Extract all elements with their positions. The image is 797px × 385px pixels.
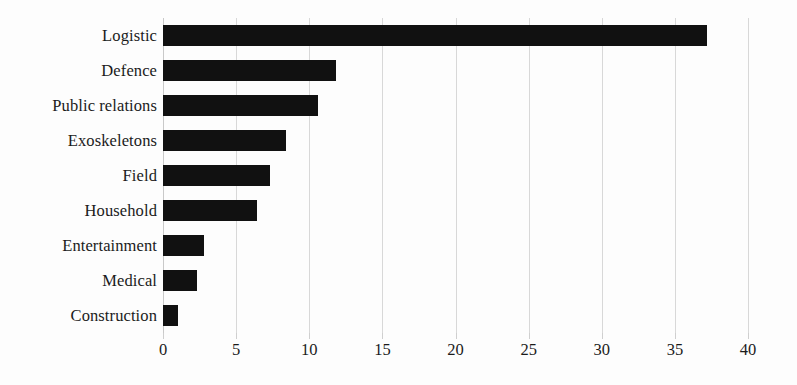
bar-row: [163, 18, 748, 53]
tick-mark-30: [602, 333, 603, 339]
category-label-logistic: Logistic: [0, 18, 157, 53]
tick-mark-0: [163, 333, 164, 339]
tick-label-35: 35: [667, 340, 684, 360]
bar-medical[interactable]: [163, 270, 197, 291]
category-axis-labels: LogisticDefencePublic relationsExoskelet…: [0, 18, 157, 333]
bar-row: [163, 123, 748, 158]
tick-label-10: 10: [301, 340, 318, 360]
tick-label-5: 5: [232, 340, 240, 360]
tick-label-40: 40: [740, 340, 757, 360]
tick-mark-35: [675, 333, 676, 339]
gridline-40: [748, 18, 749, 333]
category-label-exoskeletons: Exoskeletons: [0, 123, 157, 158]
bar-row: [163, 158, 748, 193]
category-label-public-relations: Public relations: [0, 88, 157, 123]
tick-mark-40: [748, 333, 749, 339]
tick-mark-20: [456, 333, 457, 339]
tick-label-20: 20: [447, 340, 464, 360]
bar-logistic[interactable]: [163, 25, 707, 46]
tick-label-15: 15: [374, 340, 391, 360]
bar-row: [163, 228, 748, 263]
bar-entertainment[interactable]: [163, 235, 204, 256]
bar-chart: LogisticDefencePublic relationsExoskelet…: [0, 0, 797, 385]
tick-label-30: 30: [594, 340, 611, 360]
plot-area: [163, 18, 748, 333]
tick-mark-15: [382, 333, 383, 339]
value-axis: 0510152025303540: [163, 333, 748, 373]
tick-label-0: 0: [159, 340, 167, 360]
tick-mark-5: [236, 333, 237, 339]
bar-construction[interactable]: [163, 305, 178, 326]
bar-rows: [163, 18, 748, 333]
category-label-construction: Construction: [0, 298, 157, 333]
tick-mark-10: [309, 333, 310, 339]
category-label-field: Field: [0, 158, 157, 193]
bar-row: [163, 88, 748, 123]
bar-household[interactable]: [163, 200, 257, 221]
bar-row: [163, 53, 748, 88]
bar-row: [163, 263, 748, 298]
tick-label-25: 25: [520, 340, 537, 360]
bar-row: [163, 193, 748, 228]
bar-field[interactable]: [163, 165, 270, 186]
bar-exoskeletons[interactable]: [163, 130, 286, 151]
tick-mark-25: [529, 333, 530, 339]
category-label-defence: Defence: [0, 53, 157, 88]
bar-public-relations[interactable]: [163, 95, 318, 116]
bar-row: [163, 298, 748, 333]
bar-defence[interactable]: [163, 60, 336, 81]
category-label-entertainment: Entertainment: [0, 228, 157, 263]
category-label-household: Household: [0, 193, 157, 228]
category-label-medical: Medical: [0, 263, 157, 298]
